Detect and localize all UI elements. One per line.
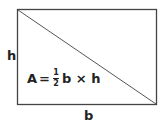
numerator: 1 bbox=[53, 69, 59, 77]
area-formula: A = 1 2 b × h bbox=[27, 69, 100, 88]
base-label: b bbox=[84, 109, 93, 122]
fraction: 1 2 bbox=[53, 69, 59, 88]
formula-rest: b × h bbox=[62, 71, 101, 86]
height-label: h bbox=[7, 49, 16, 62]
formula-lhs: A bbox=[27, 71, 37, 86]
denominator: 2 bbox=[53, 80, 59, 88]
formula-equals: = bbox=[39, 71, 50, 86]
